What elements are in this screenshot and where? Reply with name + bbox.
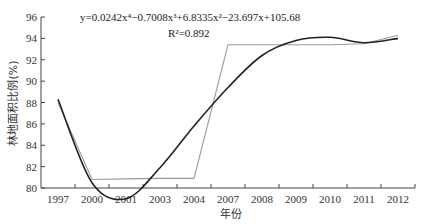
y-axis-ticks: 808284868890929496 <box>26 11 45 194</box>
x-tick-label: 2012 <box>387 193 409 205</box>
x-tick-label: 2009 <box>285 193 308 205</box>
y-axis-title: 林地面积比例(%) <box>6 60 20 145</box>
trendline-curve <box>58 37 398 199</box>
r-squared-label: R²=0.892 <box>168 27 210 39</box>
x-tick-label: 2011 <box>353 193 375 205</box>
y-tick-label: 96 <box>26 11 38 23</box>
x-tick-label: 2010 <box>319 193 342 205</box>
line-chart: 808284868890929496 199720002001200320042… <box>0 0 423 224</box>
x-tick-label: 2003 <box>149 193 172 205</box>
y-tick-label: 86 <box>26 118 38 130</box>
y-tick-label: 80 <box>26 182 38 194</box>
y-tick-label: 90 <box>26 75 38 87</box>
y-tick-label: 92 <box>26 54 37 66</box>
y-tick-label: 88 <box>26 97 38 109</box>
data-series-line <box>58 35 398 179</box>
y-tick-label: 82 <box>26 161 37 173</box>
x-tick-label: 2007 <box>217 193 240 205</box>
x-axis-title: 年份 <box>220 207 242 221</box>
x-tick-label: 2008 <box>251 193 274 205</box>
y-tick-label: 94 <box>26 32 38 44</box>
x-tick-label: 2000 <box>81 193 104 205</box>
x-tick-label: 2004 <box>183 193 206 205</box>
x-tick-label: 1997 <box>47 193 70 205</box>
y-tick-label: 84 <box>26 139 38 151</box>
trend-equation: y=0.0242x⁴−0.7008x³+6.8335x²−23.697x+105… <box>80 11 301 23</box>
